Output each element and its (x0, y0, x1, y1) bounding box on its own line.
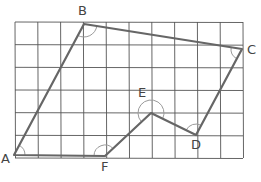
angle-arc-a (19, 145, 25, 155)
grid-line-horizontal (15, 67, 243, 68)
vertex-labels: A B C D E F (1, 3, 256, 174)
vertex-label-c: C (247, 42, 256, 57)
vertex-label-d: D (191, 137, 201, 152)
vertex-label-f: F (101, 159, 108, 174)
vertex-label-e: E (138, 85, 146, 100)
grid-line-vertical (243, 22, 244, 158)
vertex-label-a: A (1, 151, 10, 166)
hexagon-grid-diagram: A B C D E F (0, 0, 261, 182)
grid-line-horizontal (15, 158, 243, 159)
grid-line-horizontal (15, 135, 243, 136)
vertex-label-b: B (78, 3, 87, 18)
grid-line-horizontal (15, 22, 243, 23)
